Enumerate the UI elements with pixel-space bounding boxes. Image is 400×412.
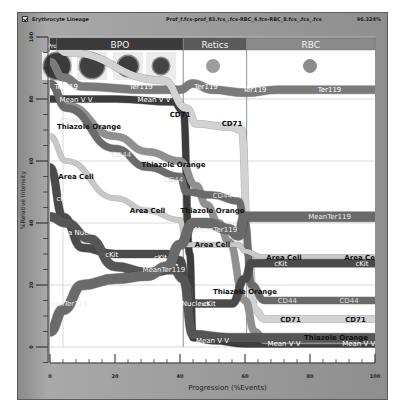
series-label: CD44	[164, 176, 184, 184]
series-label: CD71	[170, 111, 191, 119]
x-tick-label: 60	[242, 373, 249, 379]
series-label: Thiazole Orange	[213, 288, 277, 296]
series-label: Thiazole Orange	[304, 334, 368, 342]
series-label: Mean V V	[267, 340, 300, 348]
y-axis: 020406080100%Relative Intensity	[19, 31, 48, 362]
series-label: cKit	[274, 260, 287, 268]
series-label: CD71	[280, 316, 301, 324]
series-label: Mean V V	[196, 337, 229, 345]
y-tick-label: 20	[28, 281, 34, 288]
stage-label: BPO	[111, 40, 130, 50]
y-tick-label: 60	[28, 157, 34, 164]
series-label: Thiazole Orange	[180, 207, 244, 215]
series-label: cKit	[154, 254, 167, 262]
series-label: Area Cell	[58, 173, 93, 181]
y-tick-label: 100	[28, 31, 34, 42]
series-label: Area Cell	[130, 207, 165, 215]
series-label: Mean V V	[137, 96, 170, 104]
series-label: Ter119	[128, 83, 153, 91]
series-label: CD44	[213, 192, 233, 200]
x-tick-label: 0	[48, 373, 52, 379]
stage-header: ProBPOReticsRBC	[47, 38, 375, 50]
x-tick-label: 80	[307, 373, 314, 379]
y-tick-label: 80	[28, 95, 34, 102]
stage-label: RBC	[302, 40, 321, 50]
series-label: Ter119	[242, 86, 267, 94]
series-label: CD44	[112, 151, 132, 159]
series-label: cKit	[355, 260, 368, 268]
series-label: Ter119	[317, 86, 342, 94]
series-label: CD71	[222, 120, 243, 128]
series-label: CD44	[60, 117, 80, 125]
retic-cell-icon	[206, 59, 220, 73]
lineage-chart: ProBPOReticsRBCTer119Ter119Ter119Ter119T…	[0, 0, 400, 412]
series-label: cKit	[56, 195, 69, 203]
series-label: Area Nucleus	[163, 300, 210, 308]
series-label: CD44	[278, 297, 298, 305]
series-label: Ter119	[53, 83, 78, 91]
series-label: Area Nucleus	[56, 229, 103, 237]
series-label: MeanTer119	[194, 226, 237, 234]
series-label: Thiazole Orange	[141, 161, 205, 169]
stage-label: Pro	[47, 42, 57, 49]
series-label: CD71	[345, 316, 366, 324]
x-tick-label: 100	[370, 373, 381, 379]
cell-nucleus-icon	[153, 58, 169, 74]
series-label: MeanTer119	[45, 300, 88, 308]
series-label: MeanTer119	[308, 213, 351, 221]
y-tick-label: 40	[28, 219, 34, 226]
stage-label: Retics	[201, 40, 228, 50]
y-axis-label: %Relative Intensity	[19, 171, 27, 229]
series-label: CD44	[339, 297, 359, 305]
y-tick-label: 0	[28, 345, 34, 349]
series-label: Mean V V	[59, 96, 92, 104]
x-tick-label: 40	[177, 373, 184, 379]
series-label: Ter119	[193, 83, 218, 91]
series-label: Area Cell	[195, 241, 230, 249]
series-label: cKit	[105, 251, 118, 259]
rbc-cell-icon	[304, 60, 317, 73]
series-label: MeanTer119	[142, 266, 185, 274]
x-tick-label: 20	[112, 373, 119, 379]
x-axis-label: Progression (%Events)	[188, 384, 267, 392]
